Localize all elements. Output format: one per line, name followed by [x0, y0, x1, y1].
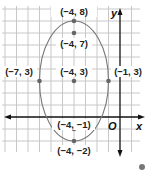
point-co-vertex-left	[37, 79, 42, 84]
x-axis-label: x	[135, 120, 143, 132]
x-axis-right-arrow-icon	[138, 115, 145, 120]
label-focus-bottom: (−4, −1)	[57, 119, 90, 130]
y-axis-down-arrow-icon	[118, 150, 123, 157]
label-vertex-bottom: (−4, −2)	[57, 145, 90, 156]
label-center: (−4, 3)	[60, 66, 88, 77]
y-axis-label: y	[110, 7, 118, 19]
label-co-vertex-left: (−7, 3)	[5, 66, 33, 77]
grid	[2, 6, 140, 152]
point-co-vertex-right	[106, 79, 111, 84]
label-co-vertex-right: (−1, 3)	[114, 66, 142, 77]
coordinate-graph: (−4, 8) (−4, 7) (−7, 3) (−4, 3) (−1, 3) …	[0, 0, 147, 170]
point-vertex-bottom	[72, 139, 77, 144]
point-center	[72, 79, 77, 84]
point-focus-top	[72, 31, 77, 36]
corner-dot	[139, 164, 145, 170]
point-vertex-top	[72, 19, 77, 24]
label-vertex-top: (−4, 8)	[60, 6, 88, 17]
label-focus-top: (−4, 7)	[60, 38, 88, 49]
origin-label: O	[108, 120, 117, 132]
